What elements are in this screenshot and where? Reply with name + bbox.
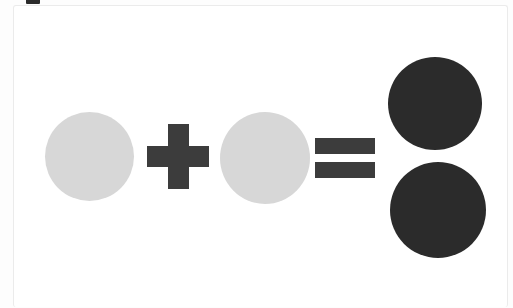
- light-circle-two: 1: [220, 112, 310, 204]
- result-value: 2: [390, 162, 391, 163]
- equation-diagram: 1 + 1 = 2: [0, 0, 513, 308]
- equals-icon: =: [315, 138, 375, 178]
- equals-bottom-bar: [315, 162, 375, 178]
- operand-one-value: 1: [45, 112, 46, 113]
- dark-circle-two: 2: [390, 162, 486, 258]
- equals-top-bar: [315, 138, 375, 154]
- light-circle-one: 1: [45, 112, 134, 201]
- operand-two-value: 1: [220, 112, 221, 113]
- dark-circle-one: [388, 57, 482, 150]
- canvas-stage: 1 + 1 = 2: [0, 0, 513, 308]
- plus-vertical-bar: [168, 124, 189, 189]
- plus-icon: +: [147, 124, 209, 189]
- plus-operator-label: +: [147, 124, 148, 125]
